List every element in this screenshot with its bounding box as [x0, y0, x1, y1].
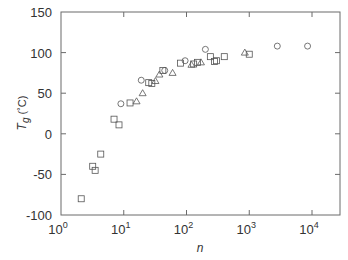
triangle-marker	[133, 98, 140, 104]
triangle-marker	[197, 59, 204, 65]
circle-marker	[202, 46, 208, 52]
data-points	[78, 43, 310, 202]
circle-marker	[118, 101, 124, 107]
y-tick-label: 50	[38, 86, 52, 101]
triangle-marker	[188, 61, 195, 67]
y-axis: -100-50050100150	[26, 5, 340, 223]
x-axis: 100101102103104	[48, 12, 318, 237]
circle-marker	[305, 43, 311, 49]
x-tick-label: 101	[111, 220, 130, 237]
circle-marker	[138, 77, 144, 83]
y-tick-label: 150	[30, 5, 52, 20]
square-marker	[78, 196, 84, 202]
plot-border	[61, 12, 340, 215]
circle-marker	[274, 43, 280, 49]
circle-marker	[162, 67, 168, 73]
x-tick-label: 102	[174, 220, 193, 237]
triangle-marker	[241, 49, 248, 55]
y-tick-label: 100	[30, 46, 52, 61]
square-marker	[111, 116, 117, 122]
x-tick-label: 100	[48, 220, 67, 237]
circle-marker	[182, 58, 188, 64]
y-tick-label: -100	[26, 208, 52, 223]
x-tick-label: 103	[237, 220, 256, 237]
square-marker	[98, 151, 104, 157]
y-axis-label-sub: g	[20, 117, 31, 123]
scatter-chart: -100-50050100150 100101102103104 n Tg(˚C…	[0, 0, 348, 260]
x-axis-label: n	[197, 241, 204, 255]
y-axis-label-unit: (˚C)	[16, 96, 28, 115]
square-marker	[221, 54, 227, 60]
x-tick-label: 104	[299, 220, 318, 237]
square-marker	[90, 163, 96, 169]
triangle-marker	[139, 90, 146, 96]
plot-frame	[61, 12, 340, 215]
y-axis-label: Tg(˚C)	[15, 96, 31, 131]
y-tick-label: 0	[45, 127, 52, 142]
y-tick-label: -50	[33, 167, 52, 182]
svg-text:Tg(˚C): Tg(˚C)	[15, 96, 31, 131]
square-marker	[246, 51, 252, 57]
triangle-marker	[169, 69, 176, 75]
square-marker	[127, 100, 133, 106]
square-marker	[92, 167, 98, 173]
square-marker	[116, 122, 122, 128]
